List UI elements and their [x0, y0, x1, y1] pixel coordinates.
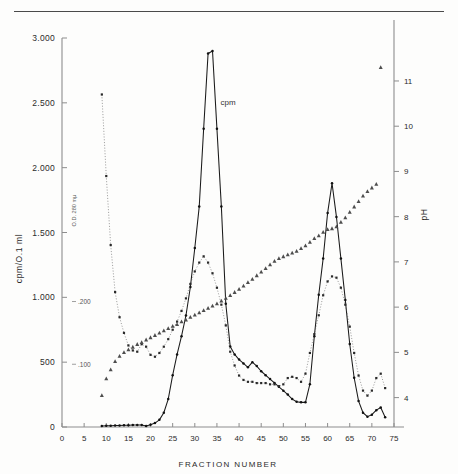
- series-point-od: [340, 287, 342, 289]
- series-point-od: [366, 395, 368, 397]
- series-line-od: [102, 94, 385, 395]
- chromatogram-plot: 05001.0001.5002.0002.5003.000cpm/O.1 ml0…: [0, 0, 458, 474]
- series-point-cpm: [154, 422, 157, 425]
- series-point-cpm: [132, 424, 135, 427]
- series-point-ph: [197, 310, 201, 314]
- series-point-ph: [374, 182, 378, 186]
- series-point-cpm: [216, 128, 219, 131]
- series-point-od: [256, 382, 258, 384]
- series-point-ph: [281, 254, 285, 258]
- series-point-cpm: [317, 293, 320, 296]
- series-point-cpm: [211, 50, 214, 53]
- series-point-od: [247, 381, 249, 383]
- series-point-ph: [113, 359, 117, 363]
- series-point-ph: [365, 189, 369, 193]
- x-tick-label: 35: [212, 434, 221, 443]
- series-point-cpm: [375, 409, 378, 412]
- x-tick-label: 5: [82, 434, 87, 443]
- series-point-ph: [370, 186, 374, 190]
- series-point-od: [313, 333, 315, 335]
- series-point-ph: [149, 335, 153, 339]
- series-point-cpm: [198, 205, 201, 208]
- series-point-cpm: [158, 419, 161, 422]
- ph-tick-label: 8: [404, 213, 409, 222]
- series-point-od: [211, 272, 213, 274]
- series-point-ph: [188, 315, 192, 319]
- series-point-ph: [330, 226, 334, 230]
- ph-tick-label: 6: [404, 303, 409, 312]
- series-point-od: [172, 329, 174, 331]
- x-tick-label: 10: [102, 434, 111, 443]
- series-point-cpm: [163, 411, 166, 414]
- x-tick-label: 30: [190, 434, 199, 443]
- series-point-ph: [135, 342, 139, 346]
- x-tick-label: 65: [345, 434, 354, 443]
- series-point-od: [296, 377, 298, 379]
- series-point-od: [132, 349, 134, 351]
- series-point-cpm: [291, 398, 294, 401]
- series-point-od: [287, 377, 289, 379]
- series-point-ph: [162, 329, 166, 333]
- series-point-od: [322, 294, 324, 296]
- series-point-ph: [255, 273, 259, 277]
- series-point-cpm: [149, 423, 152, 426]
- series-point-od: [118, 316, 120, 318]
- series-point-ph: [131, 345, 135, 349]
- series-point-ph: [295, 249, 299, 253]
- series-point-ph: [171, 324, 175, 328]
- series-point-cpm: [379, 406, 382, 409]
- series-point-cpm: [247, 366, 250, 369]
- series-point-cpm: [362, 411, 365, 414]
- series-point-od: [194, 270, 196, 272]
- series-point-ph: [126, 348, 130, 352]
- series-point-od: [291, 376, 293, 378]
- series-point-cpm: [225, 303, 228, 306]
- ph-tick-label: 9: [404, 167, 409, 176]
- x-tick-label: 55: [301, 434, 310, 443]
- series-point-od: [318, 314, 320, 316]
- series-point-cpm: [295, 400, 298, 403]
- series-point-od: [278, 385, 280, 387]
- series-point-od: [216, 287, 218, 289]
- series-point-cpm: [282, 389, 285, 392]
- series-point-ph: [104, 377, 108, 381]
- ph-tick-label: 10: [404, 122, 413, 131]
- series-point-od: [265, 382, 267, 384]
- series-point-cpm: [101, 425, 104, 428]
- series-point-cpm: [287, 393, 290, 396]
- x-tick-label: 45: [257, 434, 266, 443]
- series-point-cpm: [123, 424, 126, 427]
- series-point-cpm: [256, 365, 259, 368]
- series-point-od: [207, 262, 209, 264]
- series-point-ph: [357, 199, 361, 203]
- series-point-od: [251, 381, 253, 383]
- series-point-ph: [193, 313, 197, 317]
- series-point-cpm: [357, 400, 360, 403]
- od-tick-label: .200: [78, 298, 91, 305]
- series-point-od: [260, 382, 262, 384]
- y-tick-label: 1.500: [32, 228, 55, 238]
- series-point-ph: [286, 253, 290, 257]
- series-point-od: [349, 326, 351, 328]
- series-point-od: [242, 379, 244, 381]
- series-point-od: [203, 255, 205, 257]
- y-tick-label: 3.000: [32, 33, 55, 43]
- series-point-cpm: [207, 52, 210, 55]
- x-tick-label: 50: [279, 434, 288, 443]
- ph-tick-label: 5: [404, 348, 409, 357]
- series-point-ph: [153, 333, 157, 337]
- series-point-cpm: [127, 424, 130, 427]
- series-point-ph: [237, 287, 241, 291]
- series-point-ph: [268, 263, 272, 267]
- series-point-ph: [246, 280, 250, 284]
- series-point-od: [105, 175, 107, 177]
- series-point-od: [331, 275, 333, 277]
- od-axis-title: O.D. 280 mμ: [71, 195, 77, 227]
- series-point-cpm: [118, 424, 121, 427]
- series-point-cpm: [326, 212, 329, 215]
- series-point-ph: [233, 290, 237, 294]
- series-point-od: [163, 346, 165, 348]
- series-point-ph: [118, 354, 122, 358]
- series-point-od: [309, 352, 311, 354]
- y-tick-label: 1.000: [32, 292, 55, 302]
